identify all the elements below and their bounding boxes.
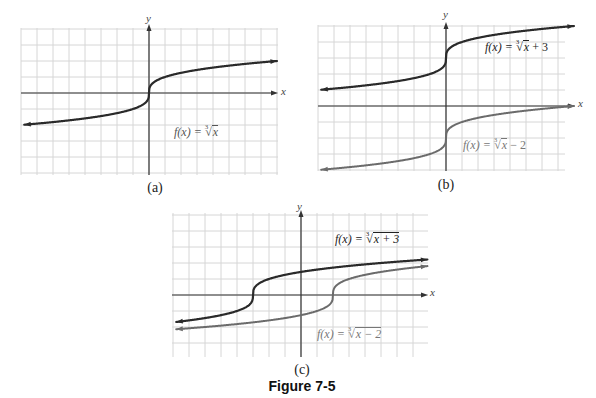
panel-b-lower-function-label: f(x) = 3√x − 2 [463, 138, 526, 153]
panel-b-upper-function-label: f(x) = 3√x + 3 [485, 40, 548, 55]
x-axis-arrow-icon [421, 293, 428, 298]
panel-c-curve-0 [176, 260, 427, 322]
figure-caption: Figure 7-5 [269, 378, 336, 394]
panel-a-y-axis-label: y [146, 12, 151, 24]
panel-b-y-axis-label: y [443, 8, 448, 20]
panel-c-curve-1 [176, 266, 427, 329]
panel-b-x-axis-label: x [578, 97, 583, 109]
panel-c-lower-function-label: f(x) = 3√x − 2 [317, 327, 381, 342]
panel-c-caption: (c) [294, 362, 310, 378]
panel-b-caption: (b) [438, 177, 454, 193]
panel-a-function-label: f(x) = 3√x [174, 125, 218, 140]
panel-c-upper-function-label: f(x) = 3√x + 3 [335, 232, 399, 247]
panel-a-x-axis-label: x [281, 85, 286, 97]
figure-canvas [0, 0, 596, 398]
panel-a-caption: (a) [147, 180, 163, 196]
panel-c-y-axis-label: y [297, 200, 302, 212]
panel-c-x-axis-label: x [430, 286, 435, 298]
y-axis-arrow-icon [147, 24, 152, 31]
